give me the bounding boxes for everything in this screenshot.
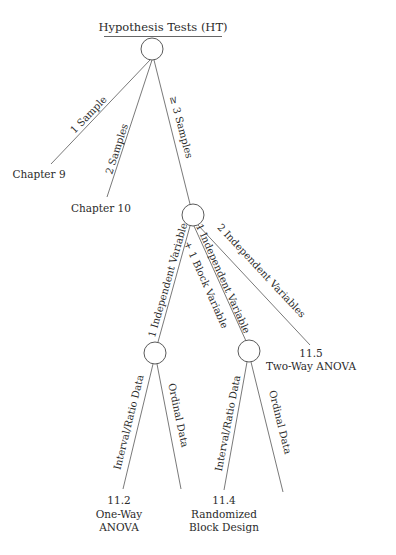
leaf-two-way-name: Two-Way ANOVA — [266, 360, 356, 372]
iv-block-node — [238, 340, 260, 362]
leaf-one-way-line1: One-Way — [96, 508, 143, 520]
leaf-randomized-line1: Randomized — [191, 508, 257, 520]
edge-two-samples — [107, 60, 152, 197]
leaf-randomized-line2: Block Design — [189, 521, 259, 533]
edge-label-one-iv-interval: Interval/Ratio Data — [111, 374, 145, 471]
edge-label-three-samples: ≥ 3 Samples — [168, 95, 195, 160]
leaf-chapter-10: Chapter 10 — [71, 202, 131, 214]
hypothesis-test-tree-diagram: Hypothesis Tests (HT) 1 Sample 2 Samples… — [0, 0, 396, 555]
leaf-chapter-9: Chapter 9 — [12, 168, 65, 180]
leaf-one-way-line2: ANOVA — [98, 521, 139, 533]
diagram-title: Hypothesis Tests (HT) — [98, 20, 227, 34]
leaf-two-way-section: 11.5 — [299, 347, 322, 359]
edge-label-one-iv: 1 Independent Variable — [146, 221, 189, 338]
edge-label-one-iv-ordinal: Ordinal Data — [166, 382, 190, 448]
leaf-one-way-section: 11.2 — [107, 494, 130, 506]
root-node — [141, 38, 163, 60]
edge-label-block-interval: Interval/Ratio Data — [213, 374, 242, 472]
leaf-randomized-section: 11.4 — [212, 494, 236, 506]
one-iv-node — [144, 342, 166, 364]
edge-label-one-sample: 1 Sample — [68, 94, 109, 136]
